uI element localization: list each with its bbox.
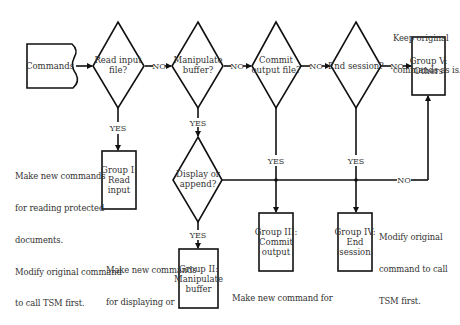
svg-text:Group IV:: Group IV: xyxy=(334,227,375,237)
yes-label: YES xyxy=(189,231,207,240)
svg-text:output: output xyxy=(262,247,291,257)
no-label: NO xyxy=(152,62,166,71)
svg-text:Commit: Commit xyxy=(259,55,293,65)
svg-text:Commit: Commit xyxy=(259,237,293,247)
junction-dot xyxy=(274,178,278,182)
junction-dot xyxy=(354,178,358,182)
decision-read-input: Read input file? xyxy=(93,22,144,108)
decision-display-append: Display or append? xyxy=(173,137,222,222)
svg-text:output file?: output file? xyxy=(251,65,300,75)
svg-text:Display or: Display or xyxy=(176,169,221,179)
group-4-box: Group IV: End session xyxy=(334,213,375,271)
group-5-note: Keep original commands as is. xyxy=(393,12,460,86)
svg-text:End: End xyxy=(346,237,364,247)
group-3-box: Group III: Commit output xyxy=(255,213,298,271)
svg-text:buffer?: buffer? xyxy=(183,65,214,75)
commands-node: Commands xyxy=(26,44,78,88)
no-label: NO xyxy=(309,62,323,71)
svg-text:Manipulate: Manipulate xyxy=(173,55,222,65)
yes-label: YES xyxy=(347,157,365,166)
commands-label: Commands xyxy=(26,61,74,71)
group-3-note: Make new command for committing protecte… xyxy=(232,272,373,325)
svg-text:Group III:: Group III: xyxy=(255,227,298,237)
decision-commit-output: Commit output file? xyxy=(251,22,301,108)
no-label: NO xyxy=(230,62,244,71)
yes-label: YES xyxy=(189,119,207,128)
group-2-note: Make new commands for displaying or appe… xyxy=(106,244,196,325)
yes-label: YES xyxy=(267,157,285,166)
svg-text:file?: file? xyxy=(109,65,127,75)
svg-text:append?: append? xyxy=(180,179,217,189)
svg-text:Read input: Read input xyxy=(94,55,142,65)
svg-text:session: session xyxy=(339,247,371,257)
decision-end-session: End session? xyxy=(328,22,384,108)
group-4-note: Modify original command to call TSM firs… xyxy=(379,211,448,317)
no-label: NO xyxy=(397,176,411,185)
yes-label: YES xyxy=(109,124,127,133)
svg-text:End session?: End session? xyxy=(328,61,384,71)
decision-manipulate-buffer: Manipulate buffer? xyxy=(172,22,223,108)
